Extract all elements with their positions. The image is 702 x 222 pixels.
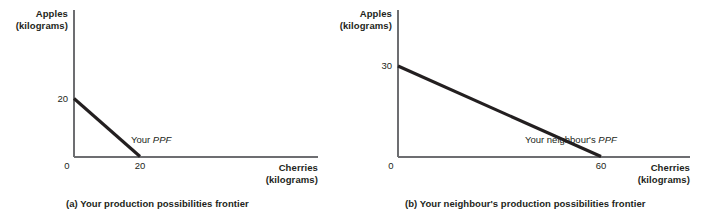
ppf-figure: Apples (kilograms) Cherries (kilograms) … [0,0,702,222]
panel-b-curve-label-prefix: Your neighbour's [525,134,598,145]
panel-a-y-axis-unit: (kilograms) [0,20,68,32]
panel-a-x-axis-name: Cherries [279,162,318,173]
panel-a-caption: (a) Your production possibilities fronti… [66,198,249,210]
panel-a-curve-label-abbr: PPF [153,134,171,145]
panel-b-x-axis-name: Cherries [651,162,690,173]
panel-b-y-tick-30: 30 [368,60,392,71]
panel-a-y-tick-20: 20 [44,93,68,104]
panel-a-x-tick-20: 20 [126,160,154,171]
panel-a-plot-area [0,0,351,222]
panel-b-y-axis-unit: (kilograms) [324,20,392,32]
panel-a-y-axis-name: Apples [36,8,68,19]
panel-b-x-axis-title: Cherries (kilograms) [622,162,690,185]
panel-b-curve-label-abbr: PPF [598,134,616,145]
panel-a-x-axis-title: Cherries (kilograms) [250,162,318,185]
panel-b-caption: (b) Your neighbour's production possibil… [405,198,646,210]
panel-a-curve-label: Your PPF [131,134,171,145]
panel-b-x-axis-unit: (kilograms) [622,174,690,186]
panel-b-plot-area [351,0,702,222]
panel-a-y-axis-title: Apples (kilograms) [0,8,68,31]
panel-a-curve-label-prefix: Your [131,134,153,145]
panel-a-x-axis-unit: (kilograms) [250,174,318,186]
panel-b-origin-label: 0 [384,160,398,171]
panel-b-x-tick-60: 60 [587,160,615,171]
panel-a-your-ppf: Apples (kilograms) Cherries (kilograms) … [0,0,351,222]
panel-b-curve-label: Your neighbour's PPF [525,134,617,145]
panel-a-origin-label: 0 [60,160,74,171]
panel-b-y-axis-name: Apples [360,8,392,19]
panel-a-ppf-line [74,99,140,157]
panel-b-y-axis-title: Apples (kilograms) [324,8,392,31]
panel-b-neighbour-ppf: Apples (kilograms) Cherries (kilograms) … [351,0,702,222]
